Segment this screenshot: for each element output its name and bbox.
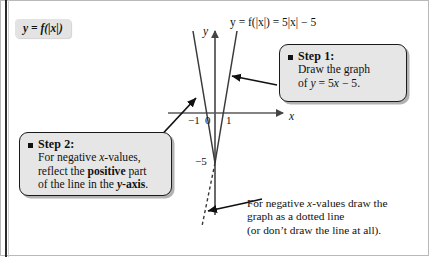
step2-line2-a: reflect the [38, 165, 88, 178]
step2-line3-bold-rest: -axis [122, 178, 145, 191]
step1-line-1: Draw the graph [298, 63, 399, 76]
footnote-line1-b: -values draw the [312, 197, 387, 209]
step1-callout: Step 1: Draw the graph of y = 5x − 5. [279, 44, 407, 102]
step2-line2-bold: positive [88, 165, 126, 178]
footnote-line1-a: For negative [247, 197, 307, 209]
step1-line-2: of y = 5x − 5. [298, 77, 399, 90]
graph-dotted-negative-part [202, 163, 215, 226]
y-tick-label-neg5: −5 [195, 155, 207, 167]
footnote-line-1: For negative x-values draw the [247, 197, 427, 210]
diagram-page: y = f(|x|) y = f(|x|) = 5|x| − 5 x [0, 0, 430, 257]
graph-equation-label: y = f(|x|) = 5|x| − 5 [230, 16, 316, 28]
step2-line3-bold-var: y-axis [117, 178, 145, 191]
graph-left-branch [193, 31, 215, 163]
x-tick-label-neg1: −1 [188, 114, 200, 126]
graph-right-branch [215, 31, 237, 163]
step1-pointer-arrow [232, 76, 277, 85]
step2-line-3: of the line in the y-axis. [38, 178, 164, 191]
y-axis-label: y [203, 25, 208, 37]
x-axis-label: x [289, 110, 294, 122]
origin-label-zero: 0 [205, 114, 211, 126]
step1-title: Step 1: [298, 50, 334, 63]
step2-header: Step 2: [28, 138, 164, 151]
x-tick-label-one: 1 [226, 114, 232, 126]
step1-line2-prefix: of [298, 77, 311, 90]
step2-body: For negative x-values, reflect the posit… [38, 151, 164, 191]
step2-callout: Step 2: For negative x-values, reflect t… [19, 132, 172, 196]
step2-line1-b: -values, [104, 151, 140, 164]
step1-line2-suffix: − 5. [339, 77, 360, 90]
step2-line1-a: For negative [38, 151, 99, 164]
step1-line2-mid: = 5 [316, 77, 334, 90]
step2-line3-b: . [145, 178, 148, 191]
step1-body: Draw the graph of y = 5x − 5. [298, 63, 399, 90]
footnote-line-2: graph as a dotted line [247, 210, 427, 223]
step2-line2-b: part [126, 165, 147, 178]
step2-line-2: reflect the positive part [38, 165, 164, 178]
footnote-line-3: (or don’t draw the line at all). [247, 224, 427, 237]
step2-line-1: For negative x-values, [38, 151, 164, 164]
footnote-caption: For negative x-values draw the graph as … [247, 197, 427, 237]
square-bullet-icon [288, 55, 293, 60]
step1-header: Step 1: [288, 50, 399, 63]
square-bullet-icon [28, 143, 33, 148]
step2-title: Step 2: [38, 138, 74, 151]
step2-line3-a: of the line in the [38, 178, 117, 191]
